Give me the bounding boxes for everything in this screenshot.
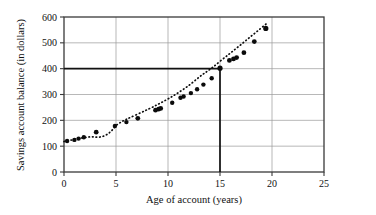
data-point xyxy=(252,39,257,44)
data-point xyxy=(170,101,174,105)
data-point xyxy=(242,50,247,55)
savings-balance-chart: 0 5 10 15 20 25 0 100 200 300 400 500 60… xyxy=(0,0,376,215)
data-point xyxy=(234,55,239,60)
data-point xyxy=(227,58,232,63)
data-point xyxy=(210,76,214,80)
x-tick-label-25: 25 xyxy=(319,178,329,189)
y-tick-label-200: 200 xyxy=(42,115,57,126)
chart-figure: 0 5 10 15 20 25 0 100 200 300 400 500 60… xyxy=(0,0,376,215)
data-point xyxy=(195,87,199,91)
data-point-intersection xyxy=(217,66,222,71)
x-tick-label-10: 10 xyxy=(163,178,173,189)
x-axis-title: Age of account (years) xyxy=(146,194,242,206)
y-tick-label-500: 500 xyxy=(42,37,57,48)
x-tick-label-0: 0 xyxy=(62,178,67,189)
data-point xyxy=(135,116,140,121)
y-tick-label-300: 300 xyxy=(42,89,57,100)
data-point xyxy=(201,82,205,86)
x-tick-label-20: 20 xyxy=(267,178,277,189)
data-point xyxy=(94,130,99,135)
data-point xyxy=(189,91,193,95)
y-tick-label-600: 600 xyxy=(42,12,57,23)
data-point xyxy=(181,94,185,98)
data-point xyxy=(76,136,80,140)
data-point xyxy=(263,26,268,31)
data-point xyxy=(82,135,86,139)
data-point xyxy=(158,106,163,111)
data-point xyxy=(72,138,76,142)
data-point xyxy=(65,139,69,143)
y-tick-label-100: 100 xyxy=(42,141,57,152)
x-tick-label-5: 5 xyxy=(114,178,119,189)
y-tick-label-400: 400 xyxy=(42,63,57,74)
data-point xyxy=(113,124,117,128)
y-tick-label-0: 0 xyxy=(52,167,57,178)
data-point xyxy=(124,120,128,124)
x-tick-label-15: 15 xyxy=(215,178,225,189)
y-axis-title: Savings account balance (in dollars) xyxy=(15,18,27,171)
